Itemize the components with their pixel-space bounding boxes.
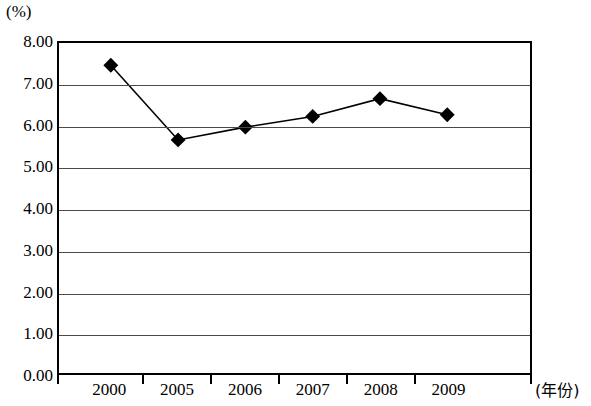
x-axis-title: (年份) [535,381,579,400]
y-tick-label: 8.00 [1,33,53,50]
gridline [59,252,530,253]
y-tick-label: 7.00 [1,74,53,91]
x-tick-label: 2007 [296,380,330,400]
y-tick-label: 0.00 [1,367,53,384]
y-tick-label: 3.00 [1,241,53,258]
x-tick-label: 2000 [92,380,126,400]
gridline [59,85,530,86]
x-tick-label: 2009 [432,380,466,400]
x-axis-labels: 200020052006200720082009 [57,380,532,406]
y-tick-label: 2.00 [1,283,53,300]
x-tick-label: 2008 [364,380,398,400]
data-point-marker [440,107,455,122]
y-tick-label: 6.00 [1,116,53,133]
data-point-marker [373,91,388,106]
data-point-marker [305,109,320,124]
gridline [59,335,530,336]
y-tick-label: 4.00 [1,200,53,217]
plot-area [57,41,532,375]
x-tick-label: 2006 [228,380,262,400]
y-tick-label: 1.00 [1,325,53,342]
gridline [59,210,530,211]
y-tick-label: 5.00 [1,158,53,175]
series-polyline [111,65,447,140]
line-chart: (%) 8.007.006.005.004.003.002.001.000.00… [0,0,591,406]
gridline [59,168,530,169]
x-tick-label: 2005 [160,380,194,400]
series-line-2000-2009 [59,43,530,373]
gridline [59,127,530,128]
y-axis-labels: 8.007.006.005.004.003.002.001.000.00 [0,0,53,406]
gridline [59,294,530,295]
